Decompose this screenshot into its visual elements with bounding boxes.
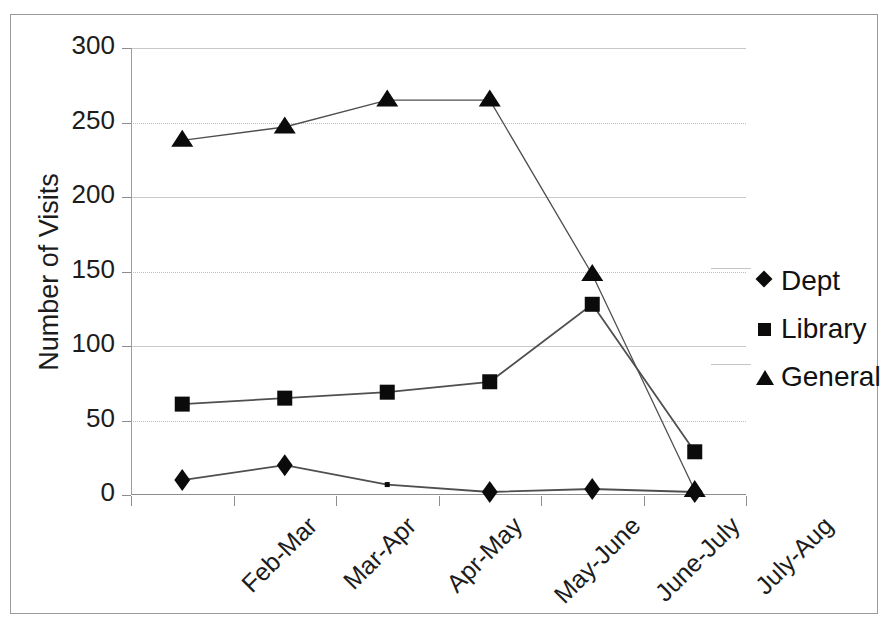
x-tick-mark: [746, 496, 747, 506]
x-tick-mark: [644, 496, 645, 506]
y-tick-label: 250: [25, 107, 115, 133]
x-tick-label-feb-mar: Feb-Mar: [236, 511, 323, 598]
x-tick-label-june-july: June-July: [650, 511, 746, 607]
square-marker-icon-glyph: [758, 323, 771, 336]
x-tick-mark: [439, 496, 440, 506]
x-tick-mark: [234, 496, 235, 506]
chart-frame: Number of Visits 300250200150100500 Feb-…: [10, 14, 878, 614]
series-line-dept: [182, 465, 695, 492]
series-line-library: [182, 304, 695, 452]
triangle-marker-icon: [753, 364, 779, 390]
x-tick-mark: [131, 496, 132, 506]
legend-item-library[interactable]: Library: [753, 305, 883, 353]
series-layer: [131, 48, 746, 495]
chart-container: Number of Visits 300250200150100500 Feb-…: [0, 0, 894, 628]
y-tick-mark: [122, 123, 131, 124]
y-tick-mark: [122, 495, 131, 496]
legend-item-dept[interactable]: Dept: [753, 257, 883, 305]
x-tick-mark: [336, 496, 337, 506]
series-line-general: [182, 100, 695, 490]
x-tick-mark: [541, 496, 542, 506]
triangle-marker-icon-glyph: [756, 370, 774, 385]
y-tick-label: 300: [25, 32, 115, 58]
y-tick-mark: [122, 197, 131, 198]
series-library: [175, 297, 703, 460]
diamond-marker-icon-glyph: [756, 271, 773, 288]
legend-label: General: [781, 363, 881, 391]
y-tick-mark: [122, 272, 131, 273]
square-marker-icon: [753, 316, 779, 342]
plot-area: [131, 48, 746, 495]
legend-line-stub: [711, 268, 751, 269]
y-tick-mark: [122, 48, 131, 49]
x-tick-label-july-aug: July-Aug: [749, 511, 838, 600]
series-general: [171, 90, 706, 497]
y-tick-label: 50: [25, 405, 115, 431]
y-tick-label: 0: [25, 479, 115, 505]
y-tick-label: 100: [25, 330, 115, 356]
legend-label: Dept: [781, 267, 840, 295]
y-tick-label: 200: [25, 181, 115, 207]
y-tick-mark: [122, 346, 131, 347]
x-tick-label-apr-may: Apr-May: [441, 511, 528, 598]
y-tick-mark: [122, 421, 131, 422]
legend-item-general[interactable]: General: [753, 353, 883, 401]
y-tick-label: 150: [25, 256, 115, 282]
chart-legend: DeptLibraryGeneral: [753, 257, 883, 401]
legend-line-stub: [711, 364, 751, 365]
legend-label: Library: [781, 315, 867, 343]
x-tick-label-mar-apr: Mar-Apr: [337, 511, 421, 595]
x-tick-label-may-june: May-June: [548, 511, 646, 609]
diamond-marker-icon: [753, 268, 779, 294]
